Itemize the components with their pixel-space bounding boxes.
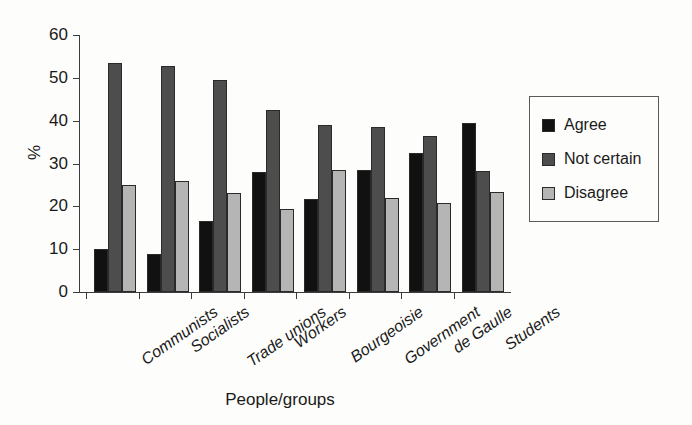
bar — [199, 221, 213, 292]
legend-label: Disagree — [564, 184, 628, 202]
bar — [147, 254, 161, 292]
bar — [252, 172, 266, 292]
y-tick-50: 50 — [73, 78, 79, 79]
bar — [409, 153, 423, 292]
legend-item: Disagree — [542, 176, 648, 210]
legend-item: Not certain — [542, 142, 648, 176]
bar — [175, 181, 189, 292]
y-tick-label: 10 — [49, 239, 68, 259]
bar-group — [94, 35, 136, 292]
y-tick-30: 30 — [73, 164, 79, 165]
bar-group — [462, 35, 504, 292]
x-tick — [191, 292, 192, 299]
y-tick-0: 0 — [73, 292, 79, 293]
bar — [108, 63, 122, 292]
y-tick-label: 40 — [49, 111, 68, 131]
bar — [423, 136, 437, 292]
bar-group — [252, 35, 294, 292]
x-tick — [244, 292, 245, 299]
bar — [490, 192, 504, 292]
chart-legend: AgreeNot certainDisagree — [529, 96, 659, 222]
bar-group — [199, 35, 241, 292]
y-tick-20: 20 — [73, 206, 79, 207]
legend-swatch-icon — [542, 119, 555, 132]
y-tick-label: 60 — [49, 25, 68, 45]
y-tick-60: 60 — [73, 35, 79, 36]
x-tick — [86, 292, 87, 299]
bar — [357, 170, 371, 293]
legend-swatch-icon — [542, 187, 555, 200]
bar — [318, 125, 332, 292]
y-tick-label: 20 — [49, 196, 68, 216]
legend-item: Agree — [542, 108, 648, 142]
plot-area: 0102030405060 — [79, 35, 509, 292]
x-tick — [349, 292, 350, 299]
bar-group — [357, 35, 399, 292]
bar — [266, 110, 280, 292]
y-tick-label: 50 — [49, 68, 68, 88]
bar — [385, 198, 399, 292]
bar-group — [147, 35, 189, 292]
bar — [437, 203, 451, 292]
bar-group — [304, 35, 346, 292]
bar — [304, 199, 318, 292]
chart-figure: % 0102030405060 CommunistsSocialistsTrad… — [0, 0, 692, 425]
y-tick-label: 30 — [49, 154, 68, 174]
bar — [227, 193, 241, 292]
bar — [332, 170, 346, 293]
x-tick — [401, 292, 402, 299]
x-axis-title: People/groups — [0, 390, 560, 410]
x-tick — [139, 292, 140, 299]
y-axis-title: % — [25, 145, 45, 160]
bar — [476, 171, 490, 292]
bar-group — [409, 35, 451, 292]
y-tick-40: 40 — [73, 121, 79, 122]
x-axis-line — [79, 292, 511, 293]
bar — [122, 185, 136, 292]
bar — [94, 249, 108, 292]
legend-label: Not certain — [564, 150, 641, 168]
x-tick — [296, 292, 297, 299]
legend-swatch-icon — [542, 153, 555, 166]
legend-label: Agree — [564, 116, 607, 134]
x-tick — [454, 292, 455, 299]
bar — [371, 127, 385, 292]
bar — [280, 209, 294, 292]
y-tick-label: 0 — [59, 282, 68, 302]
y-tick-10: 10 — [73, 249, 79, 250]
bar — [213, 80, 227, 292]
bar — [161, 66, 175, 292]
bar — [462, 123, 476, 292]
